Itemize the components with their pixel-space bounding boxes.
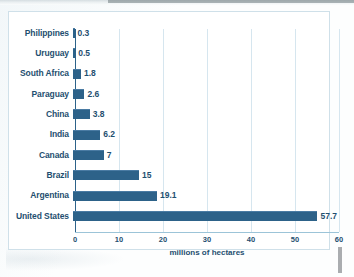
category-label: India bbox=[9, 130, 73, 139]
x-tick-label: 30 bbox=[203, 235, 211, 244]
bar-track: 1.8 bbox=[73, 64, 337, 84]
category-label: South Africa bbox=[9, 69, 73, 78]
bar-value-label: 0.3 bbox=[78, 29, 90, 38]
scan-top-dark-band bbox=[108, 0, 354, 3]
bar-value-label: 3.8 bbox=[93, 110, 105, 119]
scan-edge-mark bbox=[338, 247, 342, 273]
scanned-page: Philippines0.3Uruguay0.5South Africa1.8P… bbox=[0, 0, 354, 277]
bar bbox=[73, 191, 157, 201]
x-axis-title: millions of hectares bbox=[75, 248, 339, 257]
bar-track: 0.5 bbox=[73, 43, 337, 63]
category-label: Canada bbox=[9, 151, 73, 160]
bar-row: South Africa1.8 bbox=[9, 64, 339, 84]
bar-row: Philippines0.3 bbox=[9, 23, 339, 43]
category-label: United States bbox=[9, 212, 73, 221]
bar bbox=[73, 69, 81, 79]
bar-track: 57.7 bbox=[73, 206, 337, 226]
x-tick-label: 0 bbox=[73, 235, 77, 244]
category-label: Philippines bbox=[9, 29, 73, 38]
bar-value-label: 19.1 bbox=[160, 191, 177, 200]
gridline bbox=[339, 29, 340, 232]
bar-track: 0.3 bbox=[73, 23, 337, 43]
bar bbox=[73, 48, 75, 58]
bar-row: Brazil15 bbox=[9, 165, 339, 185]
bar bbox=[73, 28, 75, 38]
bar bbox=[73, 150, 104, 160]
bar-row: Canada7 bbox=[9, 145, 339, 165]
category-label: Argentina bbox=[9, 191, 73, 200]
bar-value-label: 7 bbox=[107, 151, 112, 160]
bar bbox=[73, 89, 84, 99]
bar-row: India6.2 bbox=[9, 124, 339, 144]
x-tick-label: 50 bbox=[291, 235, 299, 244]
bar bbox=[73, 130, 100, 140]
category-label: Brazil bbox=[9, 171, 73, 180]
bar-track: 6.2 bbox=[73, 124, 337, 144]
bar-track: 2.6 bbox=[73, 84, 337, 104]
bar-track: 3.8 bbox=[73, 104, 337, 124]
bar-track: 19.1 bbox=[73, 185, 337, 205]
bar bbox=[73, 170, 139, 180]
bar-row: Argentina19.1 bbox=[9, 185, 339, 205]
bar-track: 7 bbox=[73, 145, 337, 165]
x-tick-label: 10 bbox=[115, 235, 123, 244]
x-axis-line bbox=[75, 232, 339, 233]
bar-value-label: 6.2 bbox=[103, 130, 115, 139]
bar-rows: Philippines0.3Uruguay0.5South Africa1.8P… bbox=[9, 23, 339, 226]
x-tick-label: 20 bbox=[159, 235, 167, 244]
bar-value-label: 57.7 bbox=[320, 212, 337, 221]
bar-track: 15 bbox=[73, 165, 337, 185]
bar-value-label: 1.8 bbox=[84, 69, 96, 78]
category-label: China bbox=[9, 110, 73, 119]
x-tick-label: 60 bbox=[335, 235, 343, 244]
bar-value-label: 2.6 bbox=[87, 90, 99, 99]
bar-value-label: 0.5 bbox=[78, 49, 90, 58]
category-label: Paraguay bbox=[9, 90, 73, 99]
bar-row: Uruguay0.5 bbox=[9, 43, 339, 63]
x-tick-label: 40 bbox=[247, 235, 255, 244]
bar bbox=[73, 109, 90, 119]
x-axis-ticks: 0102030405060 bbox=[75, 235, 339, 247]
bar-row: United States57.7 bbox=[9, 206, 339, 226]
bar-row: Paraguay2.6 bbox=[9, 84, 339, 104]
bar-row: China3.8 bbox=[9, 104, 339, 124]
category-label: Uruguay bbox=[9, 49, 73, 58]
bar-chart: Philippines0.3Uruguay0.5South Africa1.8P… bbox=[8, 11, 330, 250]
bar-value-label: 15 bbox=[142, 171, 151, 180]
bar bbox=[73, 211, 317, 221]
